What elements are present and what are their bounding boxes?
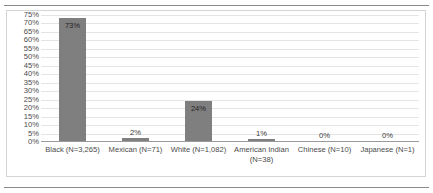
bar-slot: 24% (167, 15, 230, 141)
category-label-line1: Japanese (N=1) (360, 145, 414, 154)
bar-value-label: 73% (65, 21, 80, 30)
category-label-line2: (N=38) (231, 155, 292, 165)
bar-slot: 0% (356, 15, 419, 141)
category-label-line1: Chinese (N=10) (298, 145, 351, 154)
bar-value-label: 0% (382, 131, 393, 140)
x-axis-category-label: American Indian(N=38) (230, 145, 293, 175)
bar-value-label: 1% (256, 129, 267, 138)
x-axis: Black (N=3,265)Mexican (N=71)White (N=1,… (41, 145, 419, 175)
bar-value-label: 2% (130, 128, 141, 137)
chart-plot-wrapper: 75%70%65%60%55%50%45%40%35%30%25%20%15%1… (7, 11, 425, 176)
y-axis-tick-label: 0% (9, 138, 39, 146)
bar[interactable]: 1% (248, 139, 275, 141)
bar[interactable]: 2% (122, 138, 149, 141)
x-axis-category-label: Black (N=3,265) (41, 145, 104, 175)
category-label-line1: American Indian (234, 145, 289, 154)
bar-slot: 0% (293, 15, 356, 141)
x-axis-category-label: Japanese (N=1) (356, 145, 419, 175)
x-axis-category-label: Mexican (N=71) (104, 145, 167, 175)
top-divider (4, 5, 429, 6)
x-axis-category-label: White (N=1,082) (167, 145, 230, 175)
y-axis: 75%70%65%60%55%50%45%40%35%30%25%20%15%1… (9, 15, 39, 142)
bar[interactable]: 73% (59, 18, 86, 141)
category-label-line1: White (N=1,082) (171, 145, 227, 154)
chart-container: 75%70%65%60%55%50%45%40%35%30%25%20%15%1… (6, 10, 426, 177)
bar-value-label: 24% (191, 104, 206, 113)
bar-slot: 2% (104, 15, 167, 141)
bar-value-label: 0% (319, 131, 330, 140)
bar-series: 73%2%24%1%0%0% (41, 15, 419, 141)
category-label-line1: Mexican (N=71) (109, 145, 163, 154)
x-axis-category-label: Chinese (N=10) (293, 145, 356, 175)
category-label-line1: Black (N=3,265) (45, 145, 100, 154)
x-axis-line (41, 141, 419, 142)
bar-slot: 73% (41, 15, 104, 141)
plot-area: 73%2%24%1%0%0% (41, 15, 419, 142)
bottom-divider (4, 187, 429, 188)
bar-slot: 1% (230, 15, 293, 141)
bar[interactable]: 24% (185, 101, 212, 141)
